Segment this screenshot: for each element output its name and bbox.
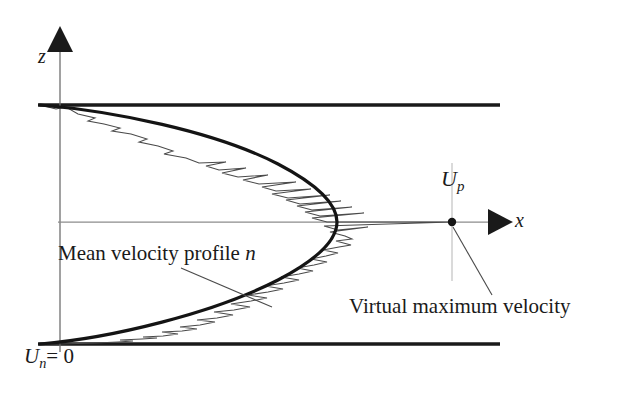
virtual-maximum-velocity-label: Virtual maximum velocity: [349, 296, 571, 317]
z-axis-label: z: [38, 46, 46, 66]
mean-velocity-profile-curve: [40, 105, 337, 344]
mean-velocity-profile-label: Mean velocity profile n: [58, 243, 256, 264]
x-axis-label: x: [515, 210, 524, 230]
peak-velocity-symbol: U: [441, 166, 457, 191]
wall-velocity-symbol: U: [24, 344, 39, 368]
z-axis-arrow-icon: [47, 26, 73, 52]
x-axis-arrow-icon: [488, 209, 513, 235]
diagram-svg: [0, 0, 625, 398]
virtual-maximum-velocity-point: [448, 218, 456, 226]
mean-velocity-profile-text: Mean velocity profile: [58, 241, 245, 265]
mean-velocity-profile-symbol: n: [245, 241, 256, 265]
wall-velocity-equals: = 0: [46, 344, 74, 368]
peak-velocity-subscript: p: [457, 178, 464, 194]
figure-canvas: z x Up Un= 0 Mean velocity profile n Vir…: [0, 0, 625, 398]
wall-velocity-label: Un= 0: [24, 346, 74, 370]
peak-velocity-label: Up: [441, 168, 464, 194]
virtual-max-leader-line: [453, 227, 492, 295]
